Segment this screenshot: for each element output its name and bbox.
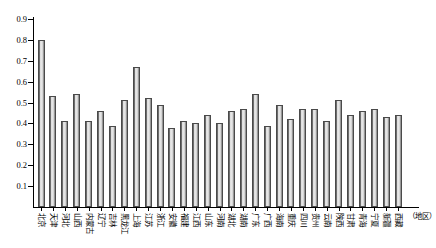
x-axis-label: 西藏 [395,213,403,227]
x-axis-label: 浙江 [157,213,165,227]
x-axis-tick [362,208,363,211]
x-axis-tick [112,208,113,211]
x-axis-tick [327,208,328,211]
y-axis-label: 0.3 [16,140,27,149]
bar [168,128,175,207]
x-axis-label: 江西 [192,213,200,227]
y-axis-tick [28,82,33,83]
bar [335,100,342,207]
x-axis-tick [291,208,292,211]
x-axis-label: 广东 [252,213,260,227]
x-axis-tick [303,208,304,211]
x-axis-tick [160,208,161,211]
bar [180,121,187,207]
x-axis-label: 贵州 [311,213,319,227]
x-axis-label: 湖北 [228,213,236,227]
y-axis-label: 0.1 [16,182,27,191]
y-axis-tick [28,103,33,104]
x-axis-label: 湖南 [240,213,248,227]
x-axis-tick [374,208,375,211]
x-axis-label: 云南 [323,213,331,227]
bars-container [34,19,419,207]
x-axis-tick [148,208,149,211]
x-axis-label: 天津 [49,213,57,227]
x-axis-tick [184,208,185,211]
x-axis-label: 宁夏 [371,213,379,227]
bar [85,121,92,207]
x-axis-tick [65,208,66,211]
x-axis-label: 辽宁 [97,213,105,227]
x-axis-tick [315,208,316,211]
x-axis-label: 黑龙江 [121,213,129,234]
bar [252,94,259,207]
bar [73,94,80,207]
x-axis-label: 吉林 [109,213,117,227]
x-axis-tick [77,208,78,211]
bar [347,115,354,207]
y-axis-label: 0.6 [16,77,27,86]
bar [264,126,271,207]
bar [133,67,140,207]
x-axis-label: 新疆 [383,213,391,227]
y-axis-tick [28,165,33,166]
x-axis-label: 内蒙古 [85,213,93,234]
x-axis-tick [398,208,399,211]
x-axis-tick [386,208,387,211]
x-axis-label: 安徽 [168,213,176,227]
x-axis-label: 广西 [264,213,272,227]
x-axis-line [33,207,419,208]
x-axis-tick [89,208,90,211]
x-axis-label: 海南 [276,213,284,227]
x-axis-label: 北京 [38,213,46,227]
x-axis-tick [279,208,280,211]
y-axis-tick [28,40,33,41]
bar [38,40,45,207]
y-axis-label: 0.4 [16,119,27,128]
x-axis-tick [196,208,197,211]
x-axis-tick [350,208,351,211]
y-axis-label: 0.9 [16,15,27,24]
x-axis-tick [231,208,232,211]
y-axis-tick [28,123,33,124]
y-axis-tick [28,61,33,62]
bar [61,121,68,207]
bar [216,123,223,207]
bar [204,115,211,207]
bar [371,109,378,207]
x-axis-label: 江苏 [145,213,153,227]
bar [383,117,390,207]
bar [192,123,199,207]
x-axis-tick [208,208,209,211]
y-axis-label: 0.2 [16,161,27,170]
x-axis-label: 甘肃 [347,213,355,227]
y-axis-tick [28,186,33,187]
x-axis-label: 福建 [180,213,188,227]
bar [359,111,366,207]
x-axis-tick [124,208,125,211]
x-axis-tick [243,208,244,211]
bar [49,96,56,207]
x-axis-tick [136,208,137,211]
x-axis-label: 山西 [73,213,81,227]
bar [323,121,330,207]
bar [299,109,306,207]
x-axis-label: 重庆 [287,213,295,227]
x-axis-tick [220,208,221,211]
x-axis-tick [172,208,173,211]
x-axis-tick [53,208,54,211]
x-axis-label: 河北 [61,213,69,227]
bar [287,119,294,207]
bar [97,111,104,207]
bar [157,105,164,207]
x-axis-label: 陕西 [335,213,343,227]
x-axis-tick [339,208,340,211]
y-axis-tick [28,144,33,145]
bar [145,98,152,207]
x-axis-label: 青海 [359,213,367,227]
x-axis-title: （地区） [408,213,436,221]
y-axis-label: 0.8 [16,36,27,45]
x-axis-label: 上海 [133,213,141,227]
bar [109,126,116,207]
x-axis-label: 河南 [216,213,224,227]
